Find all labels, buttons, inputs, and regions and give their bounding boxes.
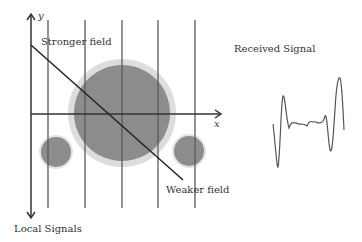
field-diagram: y x Stronger field Weaker field Local Si… [0, 0, 362, 242]
stronger-field-label: Stronger field [41, 36, 112, 47]
x-axis-label: x [214, 118, 220, 129]
weaker-field-label: Weaker field [166, 184, 230, 195]
y-axis [27, 14, 35, 218]
received-signal-waveform [273, 78, 344, 168]
local-signals-label: Local Signals [14, 223, 82, 234]
left-small-source-circle [41, 137, 71, 167]
y-axis-label: y [37, 10, 44, 21]
right-small-source-circle [174, 136, 204, 166]
received-signal-label: Received Signal [234, 43, 315, 54]
